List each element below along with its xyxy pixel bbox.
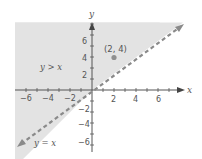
- x-tick-label: 6: [156, 95, 161, 104]
- shaded-region-fill: [15, 23, 183, 148]
- y-tick-label: −6: [78, 138, 90, 147]
- inequality-graph: −6 −4 −2 2 4 6 6 4 2 −2 −4 −6 x y (2, 4)…: [0, 0, 202, 159]
- x-axis-label: x: [187, 85, 192, 95]
- y-tick-label: −4: [78, 120, 90, 129]
- x-tick-label: −4: [42, 94, 54, 103]
- y-tick-label: −2: [78, 105, 90, 114]
- y-tick-label: 6: [82, 37, 87, 46]
- y-tick-label: 2: [82, 71, 87, 80]
- x-tick-label: 2: [111, 95, 116, 104]
- point-2-4: [111, 55, 116, 60]
- x-axis-arrow-icon: [177, 87, 185, 93]
- y-axis-label: y: [88, 9, 95, 19]
- region-label: y > x: [39, 62, 62, 72]
- point-label: (2, 4): [104, 44, 127, 54]
- x-tick-label: −6: [20, 94, 32, 103]
- y-tick-label: 4: [82, 54, 87, 63]
- x-tick-label: −2: [64, 94, 76, 103]
- line-label: y = x: [33, 138, 56, 148]
- x-tick-label: 4: [133, 95, 138, 104]
